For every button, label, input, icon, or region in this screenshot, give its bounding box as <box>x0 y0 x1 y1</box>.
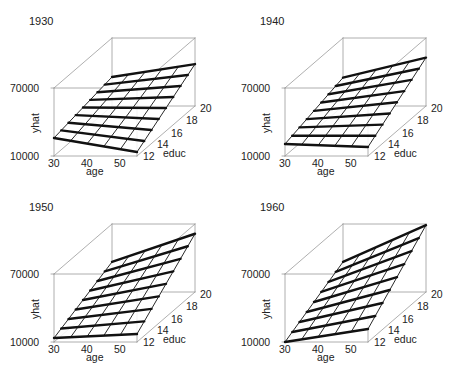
z-tick-label: 10000 <box>10 150 39 162</box>
x-tick-label: 50 <box>114 157 126 169</box>
z-axis-label: yhat <box>29 299 41 319</box>
y-tick-label: 20 <box>200 102 212 114</box>
y-tick-label: 16 <box>171 127 183 139</box>
z-tick-label: 10000 <box>241 150 270 162</box>
y-tick-label: 16 <box>171 313 183 325</box>
panel-title: 1930 <box>29 15 53 27</box>
z-axis-label: yhat <box>260 299 272 319</box>
x-tick-label: 30 <box>279 343 291 355</box>
x-axis-label: age <box>317 165 335 177</box>
y-tick-label: 20 <box>431 102 443 114</box>
x-tick-label: 50 <box>345 343 357 355</box>
z-axis-label: yhat <box>260 113 272 133</box>
x-axis-label: age <box>86 165 104 177</box>
z-axis-label: yhat <box>29 113 41 133</box>
surface-panel-1940: 19407000010000yhat304050age1214161820edu… <box>231 0 466 187</box>
x-tick-label: 30 <box>48 157 60 169</box>
y-tick-label: 18 <box>417 114 429 126</box>
z-tick-label: 10000 <box>10 336 39 348</box>
y-tick-label: 12 <box>374 150 386 162</box>
y-tick-label: 20 <box>200 288 212 300</box>
y-axis-label: educ <box>394 147 417 159</box>
y-tick-label: 18 <box>186 114 198 126</box>
y-tick-label: 18 <box>417 300 429 312</box>
y-tick-label: 12 <box>143 336 155 348</box>
x-tick-label: 30 <box>48 343 60 355</box>
y-tick-label: 16 <box>402 127 414 139</box>
y-tick-label: 18 <box>186 300 198 312</box>
y-axis-label: educ <box>394 333 417 345</box>
z-tick-label: 70000 <box>10 268 39 280</box>
panel-title: 1940 <box>260 15 284 27</box>
surface-panel-1950: 19507000010000yhat304050age1214161820edu… <box>0 186 235 373</box>
surface-panel-1960: 19607000010000yhat304050age1214161820edu… <box>231 186 466 373</box>
y-tick-label: 16 <box>402 313 414 325</box>
box-edge <box>285 38 343 88</box>
y-axis-label: educ <box>163 147 186 159</box>
y-tick-label: 12 <box>143 150 155 162</box>
panel-title: 1950 <box>29 201 53 213</box>
x-axis-label: age <box>317 351 335 363</box>
surface-grid-educ-line <box>83 107 166 108</box>
x-tick-label: 50 <box>345 157 357 169</box>
box-edge <box>54 224 112 274</box>
box-edge <box>54 38 112 88</box>
x-tick-label: 30 <box>279 157 291 169</box>
y-tick-label: 20 <box>431 288 443 300</box>
y-axis-label: educ <box>163 333 186 345</box>
box-edge <box>285 224 343 274</box>
y-tick-label: 12 <box>374 336 386 348</box>
z-tick-label: 70000 <box>241 268 270 280</box>
x-axis-label: age <box>86 351 104 363</box>
z-tick-label: 70000 <box>10 82 39 94</box>
z-tick-label: 70000 <box>241 82 270 94</box>
z-tick-label: 10000 <box>241 336 270 348</box>
panel-title: 1960 <box>260 201 284 213</box>
surface-panel-1930: 19307000010000yhat304050age1214161820edu… <box>0 0 235 187</box>
x-tick-label: 50 <box>114 343 126 355</box>
